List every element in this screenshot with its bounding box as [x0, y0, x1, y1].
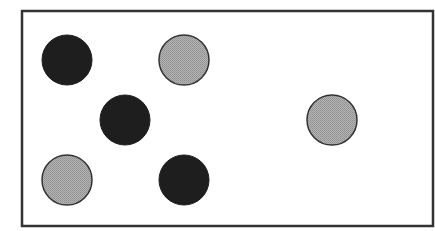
gray-dot: [307, 95, 357, 145]
dark-dot: [42, 35, 92, 85]
gray-dot: [159, 35, 209, 85]
gray-dot: [42, 155, 92, 205]
dark-dot: [159, 155, 209, 205]
dot-diagram: [0, 0, 435, 231]
dark-dot: [100, 95, 150, 145]
